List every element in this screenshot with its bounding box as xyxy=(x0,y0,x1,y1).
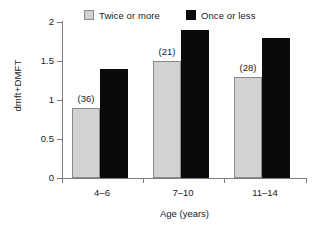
bar-annotation-4-6: (36) xyxy=(66,93,106,104)
legend-swatch-gray-icon xyxy=(84,10,94,20)
x-tick-mark-1 xyxy=(143,178,144,183)
y-tick-label-0: 0 xyxy=(24,173,54,183)
x-tick-label-group-3: 11–14 xyxy=(235,187,295,198)
x-tick-mark-2 xyxy=(224,178,225,183)
y-tick-label-1-5: 1.5 xyxy=(24,56,54,66)
legend-item-once-or-less: Once or less xyxy=(186,10,256,21)
x-tick-mark-start xyxy=(62,178,63,183)
x-axis-title: Age (years) xyxy=(62,208,307,219)
bar-once-or-less-11-14 xyxy=(262,38,290,178)
bar-annotation-7-10: (21) xyxy=(147,46,187,57)
x-axis-line xyxy=(62,178,307,179)
bar-annotation-11-14: (28) xyxy=(228,62,268,73)
legend-label-once-or-less: Once or less xyxy=(201,10,256,21)
plot-area: (36) (21) (28) xyxy=(62,22,306,178)
x-tick-mark-end xyxy=(306,178,307,183)
y-axis-title: dmft+DMFT xyxy=(12,41,23,131)
legend-swatch-black-icon xyxy=(186,10,196,20)
bar-twice-or-more-7-10 xyxy=(153,61,181,178)
bar-twice-or-more-4-6 xyxy=(72,108,100,178)
x-tick-label-group-2: 7–10 xyxy=(153,187,213,198)
chart-legend: Twice or more Once or less xyxy=(84,7,299,23)
legend-label-twice-or-more: Twice or more xyxy=(99,10,160,21)
legend-item-twice-or-more: Twice or more xyxy=(84,10,160,21)
bar-twice-or-more-11-14 xyxy=(234,77,262,178)
y-tick-label-1: 1 xyxy=(24,95,54,105)
bar-chart: Twice or more Once or less 2 1.5 1 0.5 0… xyxy=(0,0,312,234)
x-tick-label-group-1: 4–6 xyxy=(72,187,132,198)
bar-once-or-less-4-6 xyxy=(100,69,128,178)
y-tick-label-2: 2 xyxy=(24,17,54,27)
y-tick-label-0-5: 0.5 xyxy=(24,134,54,144)
